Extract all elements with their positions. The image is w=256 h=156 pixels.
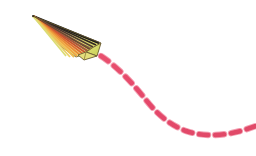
illustration-canvas: A rainbow-striped origami paper airplane…: [0, 0, 256, 156]
nose-tip-icon: [32, 15, 34, 17]
paper-plane-illustration: [0, 0, 256, 156]
